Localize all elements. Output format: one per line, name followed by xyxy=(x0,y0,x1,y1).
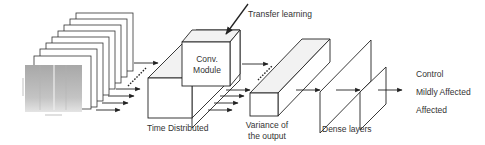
output-class-mildly-affected: Mildly Affected xyxy=(416,87,471,97)
variance-label-line2: the output xyxy=(244,131,290,141)
variance-label-line1: Variance of xyxy=(244,120,290,130)
conv-module-label-line1: Conv. xyxy=(184,54,230,64)
variance-block xyxy=(250,39,330,116)
dense-layers-label: Dense layers xyxy=(322,124,372,134)
output-class-affected: Affected xyxy=(416,105,447,115)
transfer-learning-label: Transfer learning xyxy=(248,9,312,19)
transfer-learning-arrow xyxy=(226,4,248,34)
conv-module-label-line2: Module xyxy=(184,65,230,75)
spectrogram-image xyxy=(23,65,82,115)
output-class-control: Control xyxy=(416,69,443,79)
time-distributed-label: Time Distributed xyxy=(147,123,209,133)
architecture-diagram xyxy=(0,0,485,145)
